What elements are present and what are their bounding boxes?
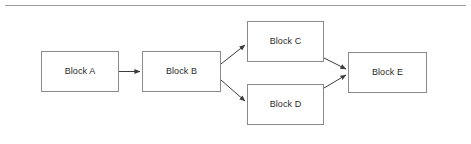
diagram-canvas: Block A Block B Block C Block D Block E bbox=[0, 0, 471, 144]
block-label-d: Block D bbox=[270, 100, 302, 109]
block-node-d[interactable]: Block D bbox=[247, 84, 324, 125]
block-label-a: Block A bbox=[65, 67, 96, 76]
block-node-a[interactable]: Block A bbox=[41, 51, 119, 92]
block-node-c[interactable]: Block C bbox=[247, 21, 324, 62]
edge-c-to-e bbox=[324, 58, 346, 69]
block-label-e: Block E bbox=[372, 68, 403, 77]
edge-b-to-d bbox=[221, 80, 245, 101]
block-label-c: Block C bbox=[270, 37, 302, 46]
block-label-b: Block B bbox=[166, 67, 197, 76]
edge-b-to-c bbox=[221, 45, 245, 64]
edge-d-to-e bbox=[324, 75, 346, 88]
block-node-e[interactable]: Block E bbox=[348, 52, 427, 93]
block-node-b[interactable]: Block B bbox=[142, 51, 221, 92]
horizontal-rule-divider bbox=[5, 5, 466, 6]
